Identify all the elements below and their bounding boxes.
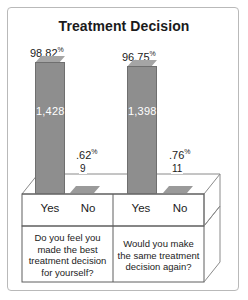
category-label-g2-yes: Yes [121, 202, 161, 214]
bar-count-g1-no: 9 [79, 163, 87, 174]
bar-count-g2-no: 11 [171, 163, 183, 174]
bar-g2-no [163, 186, 193, 194]
category-label-g1-yes: Yes [30, 202, 70, 214]
percent-value-g1-no: .62 [76, 149, 91, 161]
bar-top-face [70, 186, 100, 193]
category-label-g2-no: No [160, 202, 200, 214]
percent-sign: % [150, 50, 156, 57]
bar-front-face: 1,398 [127, 66, 157, 194]
bar-g1-no [70, 186, 100, 194]
percent-sign: % [184, 148, 190, 155]
percent-sign: % [91, 148, 97, 155]
percent-label-g1-no: .62% [76, 148, 98, 161]
percent-value-g2-no: .76 [169, 149, 184, 161]
chart-frame: Treatment Decision [7, 7, 239, 291]
category-label-g1-no: No [68, 202, 108, 214]
bar-count-g2-yes: 1,398 [128, 105, 156, 117]
bar-top-face [163, 186, 193, 193]
percent-label-g2-no: .76% [169, 148, 191, 161]
bar-count-g1-yes: 1,428 [36, 105, 64, 117]
plot-area: 98.82% 1,428 .62% 9 96.75% 1,398 .76% [8, 34, 240, 292]
bar-g1-yes: 1,428 [35, 62, 65, 194]
question-label-group-2: Would you make the same treatment decisi… [116, 238, 201, 273]
page-title: Treatment Decision [8, 18, 240, 34]
percent-sign: % [58, 46, 64, 53]
bar-front-face: 1,428 [35, 62, 65, 194]
question-label-group-1: Do you feel you made the best treatment … [25, 232, 110, 278]
bar-g2-yes: 1,398 [127, 66, 157, 194]
